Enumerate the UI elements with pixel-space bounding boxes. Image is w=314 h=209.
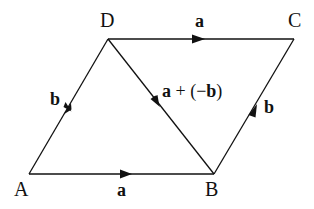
arrow-head-icon — [192, 35, 205, 44]
vector-label-BC: b — [264, 97, 274, 117]
edge-AB — [29, 170, 214, 179]
edge-DB — [108, 39, 214, 174]
vector-label-AD: b — [50, 89, 60, 109]
arrow-head-icon — [120, 170, 132, 179]
vector-parallelogram-diagram: A B C D a a b b a + (−b) — [0, 0, 314, 209]
point-label-B: B — [205, 178, 218, 200]
edge-BC — [214, 39, 294, 174]
edge-AD — [29, 39, 108, 174]
vector-label-DC: a — [195, 11, 204, 31]
arrow-head-icon — [249, 104, 258, 118]
point-label-D: D — [100, 9, 114, 31]
vector-label-DB: a + (−b) — [162, 81, 222, 102]
point-label-A: A — [14, 178, 29, 200]
point-label-C: C — [288, 9, 301, 31]
edge-DC — [108, 35, 294, 44]
vector-label-AB: a — [117, 180, 126, 200]
